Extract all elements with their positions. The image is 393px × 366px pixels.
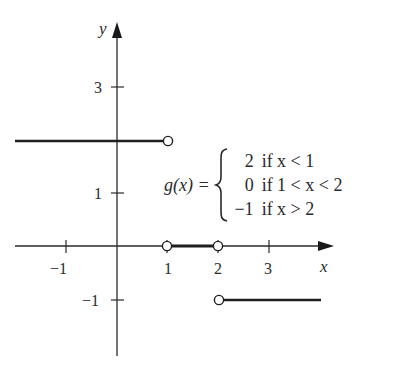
case-condition: if x < 1 (262, 149, 315, 173)
segment-y-equals-2 (15, 136, 173, 145)
segment-y-equals-0 (162, 240, 222, 253)
formula-lhs: g(x) = (164, 175, 210, 196)
formula-cases: 2 if x < 1 0 if 1 < x < 2 −1 if x > 2 (232, 149, 343, 221)
left-brace-icon (214, 148, 230, 222)
y-axis-arrow-icon (112, 22, 122, 38)
open-endpoint-circle (214, 295, 223, 304)
y-tick-label-minus1: −1 (82, 292, 99, 309)
x-tick-label-1: 1 (164, 260, 172, 277)
formula-case-row: 0 if 1 < x < 2 (232, 173, 343, 197)
piecewise-formula: g(x) = 2 if x < 1 0 if 1 < x < 2 −1 if x… (164, 147, 342, 223)
y-tick-label-3: 3 (94, 79, 102, 96)
x-tick-label-minus1: −1 (50, 260, 67, 277)
x-axis-arrow-icon (318, 241, 334, 251)
open-endpoint-circle (162, 241, 171, 250)
formula-case-row: 2 if x < 1 (232, 149, 343, 173)
case-value: 2 (232, 149, 254, 173)
x-tick-label-3: 3 (264, 260, 272, 277)
y-axis: y 3 1 −1 (82, 19, 124, 356)
open-endpoint-circle (213, 241, 222, 250)
x-tick-label-2: 2 (214, 260, 222, 277)
case-value: 0 (232, 173, 254, 197)
y-axis-label: y (97, 19, 107, 38)
x-axis-label: x (319, 257, 328, 276)
case-value: −1 (232, 197, 254, 221)
y-tick-label-1: 1 (94, 185, 102, 202)
case-condition: if 1 < x < 2 (262, 173, 343, 197)
formula-case-row: −1 if x > 2 (232, 197, 343, 221)
open-endpoint-circle (163, 136, 172, 145)
segment-y-equals-minus1 (214, 295, 321, 304)
case-condition: if x > 2 (262, 197, 315, 221)
